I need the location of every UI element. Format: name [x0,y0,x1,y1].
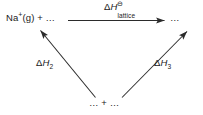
label-delta-h3: ΔH3 [154,58,171,68]
born-haber-cycle-diagram: Na+(g) + … ΔH⊖lattice … ΔH2 ΔH3 … + … [0,0,203,115]
lattice-h-symbol: H [110,1,117,12]
label-bottom-species: … + … [89,98,119,108]
standard-state-symbol: ⊖ [117,1,123,8]
left-species-element: Na [6,12,18,23]
left-species-suffix: (g) + … [23,12,56,23]
label-delta-h2: ΔH2 [36,58,53,68]
label-lattice-enthalpy: ΔH⊖lattice [104,2,117,12]
label-left-species: Na+(g) + … [6,13,55,23]
dh3-subscript: 3 [167,63,171,70]
lattice-subscript: lattice [117,13,135,20]
label-right-species: … [170,13,180,23]
dh2-subscript: 2 [49,63,53,70]
